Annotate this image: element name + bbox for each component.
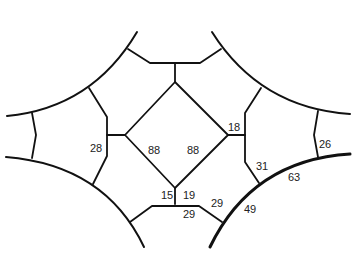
top-left-link [128, 49, 221, 63]
label-right-arc-edge: 26 [319, 138, 331, 150]
label-right-junction: 18 [228, 121, 240, 133]
label-bottom-right-arc-lower: 49 [244, 203, 256, 215]
label-bottom-right-stem: 19 [183, 189, 195, 201]
central-diamond [125, 82, 228, 188]
label-bottom-right-arc-upper: 63 [288, 171, 300, 183]
label-left-vertical: 28 [90, 142, 102, 154]
top-left-arc [7, 32, 137, 116]
bottom-link [130, 206, 222, 222]
top-right-arc [212, 32, 350, 114]
label-diamond-left: 88 [148, 144, 160, 156]
far-right-edge [314, 111, 318, 157]
label-bottom-horizontal: 29 [183, 208, 195, 220]
label-bottom-left-stem: 15 [161, 189, 173, 201]
network-diagram: 28 88 88 18 31 26 63 49 15 19 29 29 [0, 0, 357, 259]
left-column [89, 88, 107, 184]
label-bottom-diag: 29 [211, 197, 223, 209]
bottom-right-arc [210, 154, 350, 247]
far-left-edge [32, 113, 36, 158]
bottom-left-arc [6, 157, 144, 247]
label-right-lower-edge: 31 [256, 160, 268, 172]
label-diamond-right: 88 [187, 144, 199, 156]
